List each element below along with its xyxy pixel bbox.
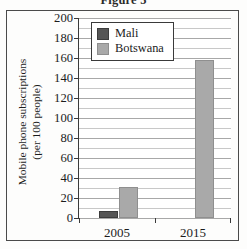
y-axis-tick-label: 200 — [54, 12, 73, 25]
y-axis-tick-label: 20 — [60, 192, 73, 205]
y-axis-tick-label: 0 — [67, 212, 73, 225]
y-axis-tick — [74, 118, 79, 119]
y-axis-tick — [74, 58, 79, 59]
y-axis-tick-label: 80 — [60, 132, 73, 145]
legend-swatch-mali-icon — [97, 28, 109, 40]
y-axis-title-line-1: Mobile phone subscriptions — [16, 58, 28, 185]
y-axis-tick-label: 40 — [60, 172, 73, 185]
y-axis-tick — [74, 78, 79, 79]
legend-item-botswana: Botswana — [97, 41, 164, 56]
x-axis-tick-label: 2005 — [104, 226, 130, 239]
y-axis-title: Mobile phone subscriptions (per 100 peop… — [11, 14, 49, 229]
bar-botswana-2005 — [119, 187, 138, 218]
y-axis-tick-label: 180 — [54, 32, 73, 45]
x-axis-tick — [230, 218, 231, 223]
y-axis-tick — [74, 18, 79, 19]
plot-area: 02040608010012014016018020020052015MaliB… — [78, 18, 231, 219]
bar-botswana-2015 — [195, 60, 214, 218]
x-axis-tick-label: 2015 — [180, 226, 206, 239]
y-axis-tick — [74, 98, 79, 99]
gridline-major — [79, 18, 231, 19]
y-axis-tick — [74, 198, 79, 199]
y-axis-tick-label: 120 — [54, 92, 73, 105]
figure-title: Figure 5 — [0, 0, 247, 8]
y-axis-tick — [74, 138, 79, 139]
figure-container: Figure 5 Mobile phone subscriptions (per… — [0, 0, 247, 249]
y-axis-title-line-2: (per 100 people) — [30, 84, 42, 159]
legend-swatch-botswana-icon — [97, 43, 109, 55]
y-axis-tick-label: 140 — [54, 72, 73, 85]
y-axis-tick — [74, 178, 79, 179]
bar-mali-2005 — [99, 211, 118, 218]
y-axis-tick-label: 100 — [54, 112, 73, 125]
legend-label: Mali — [115, 27, 138, 39]
legend-item-mali: Mali — [97, 26, 164, 41]
x-axis-tick — [155, 218, 156, 223]
y-axis-tick — [74, 158, 79, 159]
y-axis-tick-label: 60 — [60, 152, 73, 165]
y-axis-tick-label: 160 — [54, 52, 73, 65]
x-axis-tick — [79, 218, 80, 223]
chart-legend: MaliBotswana — [91, 22, 174, 61]
legend-label: Botswana — [115, 42, 164, 54]
y-axis-tick — [74, 38, 79, 39]
